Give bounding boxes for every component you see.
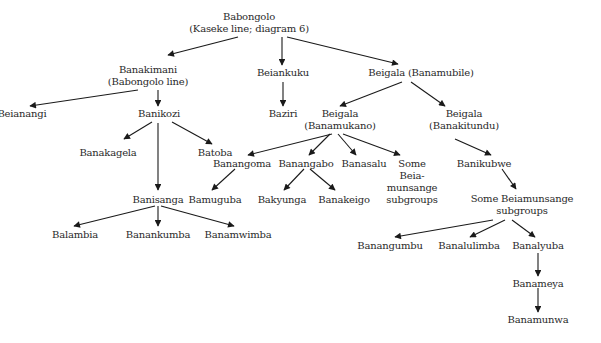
arrow-banangoma-to-bamuguba: [212, 169, 235, 190]
node-banasalu: Banasalu: [342, 158, 387, 170]
node-label-line: Beigala: [429, 108, 499, 120]
node-label-line: Banangoma: [213, 158, 271, 170]
arrow-banikozi-to-banakagela: [124, 122, 152, 139]
node-label-line: (Banamukano): [304, 120, 376, 132]
node-label-line: Banasalu: [342, 158, 387, 170]
node-bamuguba: Bamuguba: [189, 194, 242, 206]
node-label-line: Some: [386, 158, 437, 170]
node-label-line: Banamunwa: [508, 314, 569, 326]
node-beigala-banamukano: Beigala(Banamukano): [304, 108, 376, 132]
arrow-beigala_banamukano-to-some_beia_munsange_1: [343, 134, 400, 155]
node-banamunwa: Banamunwa: [508, 314, 569, 326]
node-label-line: Banameya: [512, 278, 563, 290]
node-banangumbu: Banangumbu: [357, 240, 422, 252]
node-banangabo: Banangabo: [278, 158, 333, 170]
node-label-line: subgroups: [386, 194, 437, 206]
node-banamwimba: Banamwimba: [205, 229, 272, 241]
node-babongolo: Babongolo(Kaseke line; diagram 6): [189, 11, 309, 35]
arrow-beigala_banakitundu-to-banikubwe: [455, 139, 491, 155]
node-label-line: Beianangi: [0, 108, 47, 120]
node-label-line: Bamuguba: [189, 194, 242, 206]
node-label-line: subgroups: [471, 205, 574, 217]
arrow-beigala_banamubile-to-beigala_banamukano: [340, 82, 402, 106]
node-banameya: Banameya: [512, 278, 563, 290]
node-label-line: Banangabo: [278, 158, 333, 170]
node-label-line: Banankumba: [126, 229, 191, 241]
node-beigala-banakitundu: Beigala(Banakitundu): [429, 108, 499, 132]
node-some-beia-munsange-1: SomeBeia-munsangesubgroups: [386, 158, 437, 206]
node-label-line: (Kaseke line; diagram 6): [189, 23, 309, 35]
node-bakyunga: Bakyunga: [258, 194, 307, 206]
node-label-line: Banangumbu: [357, 240, 422, 252]
node-label-line: Banakimani: [108, 64, 188, 76]
node-beiankuku: Beiankuku: [257, 67, 309, 79]
node-label-line: Beia-: [386, 170, 437, 182]
node-banikozi: Banikozi: [138, 108, 180, 120]
arrow-babongolo-to-beigala_banamubile: [287, 37, 398, 64]
node-banankumba: Banankumba: [126, 229, 191, 241]
node-banisanga: Banisanga: [132, 194, 183, 206]
arrow-some_beiamunsange_2-to-banalyuba: [512, 220, 535, 237]
arrow-banisanga-to-balambia: [74, 206, 155, 226]
node-banakimani: Banakimani(Babongolo line): [108, 64, 188, 88]
arrow-banikubwe-to-some_beiamunsange_2: [502, 169, 516, 189]
node-banangoma: Banangoma: [213, 158, 271, 170]
node-label-line: Beigala: [304, 108, 376, 120]
node-label-line: Banikozi: [138, 108, 180, 120]
node-beigala-banamubile: Beigala (Banamubile): [368, 67, 473, 79]
arrow-banakimani-to-beianangi: [30, 90, 138, 106]
node-label-line: Banakeigo: [318, 194, 370, 206]
node-label-line: (Banakitundu): [429, 120, 499, 132]
node-label-line: Banalyuba: [512, 240, 564, 252]
node-balambia: Balambia: [52, 229, 98, 241]
node-label-line: Bakyunga: [258, 194, 307, 206]
node-beianangi: Beianangi: [0, 108, 47, 120]
node-label-line: Balambia: [52, 229, 98, 241]
node-label-line: (Babongolo line): [108, 76, 188, 88]
edge-layer: [0, 0, 601, 343]
arrow-banangabo-to-bakyunga: [284, 169, 304, 190]
arrow-some_beiamunsange_2-to-banangumbu: [395, 220, 493, 237]
node-banikubwe: Banikubwe: [457, 158, 512, 170]
node-label-line: Beiankuku: [257, 67, 309, 79]
node-banakagela: Banakagela: [79, 147, 136, 159]
node-label-line: Banamwimba: [205, 229, 272, 241]
node-label-line: munsange: [386, 182, 437, 194]
arrow-banikozi-to-batoba: [172, 122, 212, 144]
node-label-line: Some Beiamunsange: [471, 193, 574, 205]
arrow-beigala_banamubile-to-beigala_banakitundu: [411, 82, 445, 106]
arrow-babongolo-to-banakimani: [168, 37, 238, 55]
node-some-beiamunsange-2: Some Beiamunsangesubgroups: [471, 193, 574, 217]
arrow-banisanga-to-banamwimba: [161, 206, 234, 226]
node-label-line: Banikubwe: [457, 158, 512, 170]
arrow-banangabo-to-banakeigo: [310, 169, 335, 190]
node-label-line: Baziri: [269, 108, 298, 120]
node-label-line: Banalulimba: [438, 240, 499, 252]
node-label-line: Beigala (Banamubile): [368, 67, 473, 79]
node-label-line: Banakagela: [79, 147, 136, 159]
node-baziri: Baziri: [269, 108, 298, 120]
arrow-beigala_banamukano-to-banasalu: [338, 134, 356, 155]
node-label-line: Babongolo: [189, 11, 309, 23]
node-label-line: Banisanga: [132, 194, 183, 206]
node-banalulimba: Banalulimba: [438, 240, 499, 252]
node-banakeigo: Banakeigo: [318, 194, 370, 206]
node-banalyuba: Banalyuba: [512, 240, 564, 252]
